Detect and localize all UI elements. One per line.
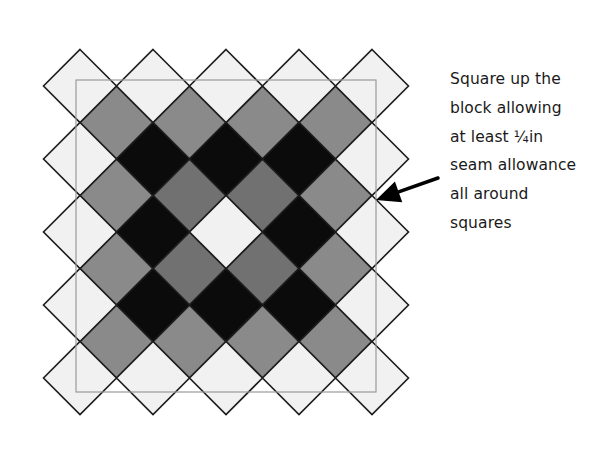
caption-line-3: at least ¼in [450, 123, 613, 152]
arrow-shaft [399, 178, 438, 192]
caption-line-5: all around [450, 180, 613, 209]
caption-line-1: Square up the [450, 65, 613, 94]
caption-line-6: squares [450, 209, 613, 238]
instruction-caption: Square up the block allowing at least ¼i… [450, 65, 613, 238]
outer-diamond-layer [44, 50, 409, 415]
caption-line-2: block allowing [450, 94, 613, 123]
caption-line-4: seam allowance [450, 151, 613, 180]
